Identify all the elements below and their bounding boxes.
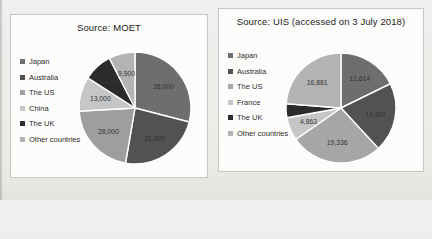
legend-label-the-uk: The UK <box>29 119 54 128</box>
pie-value-label-other-countries: 16,881 <box>307 79 328 86</box>
legend-swatch-japan <box>20 59 25 64</box>
legend-label-the-us: The US <box>237 82 262 91</box>
legend-item-the-us: The US <box>228 82 288 91</box>
legend-swatch-other-countries <box>228 131 233 136</box>
legend-label-the-us: The US <box>29 88 54 97</box>
chart-panel-moet: Source: MOET 38,00031,00028,00013,00011,… <box>10 14 208 178</box>
chart-panel-uis: Source: UIS (accessed on 3 July 2018) 12… <box>218 8 424 172</box>
legend-label-france: France <box>237 98 260 107</box>
legend-swatch-china <box>20 106 25 111</box>
pie-value-label-the-uk: 11,000 <box>101 78 122 85</box>
pie-value-label-australia: 14,491 <box>365 111 386 118</box>
legend-item-the-us: The US <box>20 88 80 97</box>
legend-label-other-countries: Other countries <box>29 135 80 144</box>
legend-swatch-the-us <box>228 84 233 89</box>
scan-edge-shadow <box>0 0 3 200</box>
pie-value-label-france: 4,863 <box>300 118 317 125</box>
legend-label-australia: Australia <box>29 73 58 82</box>
pie-value-label-japan: 38,000 <box>153 83 174 90</box>
pie-slice-the-us <box>79 108 135 163</box>
legend-swatch-france <box>228 100 233 105</box>
legend-item-the-uk: The UK <box>20 119 80 128</box>
pie-value-label-australia: 31,000 <box>144 135 165 142</box>
legend-item-japan: Japan <box>228 51 288 60</box>
legend-swatch-australia <box>228 69 233 74</box>
legend-item-france: France <box>228 98 288 107</box>
legend-moet: JapanAustraliaThe USChinaThe UKOther cou… <box>20 57 80 150</box>
legend-item-australia: Australia <box>228 67 288 76</box>
legend-swatch-the-uk <box>20 121 25 126</box>
legend-uis: JapanAustraliaThe USFranceThe UKOther co… <box>228 51 288 144</box>
legend-label-china: China <box>29 104 49 113</box>
legend-item-other-countries: Other countries <box>20 135 80 144</box>
pie-value-label-the-uk: 2,901 <box>297 106 314 113</box>
pie-value-label-other-countries: 9,900 <box>118 70 135 77</box>
two-pie-chart-figure: Source: MOET 38,00031,00028,00013,00011,… <box>0 0 432 200</box>
pie-value-label-the-us: 28,000 <box>98 128 119 135</box>
legend-item-other-countries: Other countries <box>228 129 288 138</box>
pie-value-label-japan: 12,614 <box>349 75 370 82</box>
legend-swatch-japan <box>228 53 233 58</box>
legend-item-the-uk: The UK <box>228 113 288 122</box>
legend-label-japan: Japan <box>29 57 49 66</box>
legend-swatch-the-uk <box>228 115 233 120</box>
legend-swatch-the-us <box>20 90 25 95</box>
legend-label-japan: Japan <box>237 51 257 60</box>
pie-value-label-china: 13,000 <box>90 95 111 102</box>
legend-swatch-australia <box>20 75 25 80</box>
legend-label-the-uk: The UK <box>237 113 262 122</box>
legend-item-australia: Australia <box>20 73 80 82</box>
legend-label-other-countries: Other countries <box>237 129 288 138</box>
legend-label-australia: Australia <box>237 67 266 76</box>
legend-item-china: China <box>20 104 80 113</box>
pie-value-label-the-us: 19,336 <box>327 139 348 146</box>
legend-swatch-other-countries <box>20 137 25 142</box>
legend-item-japan: Japan <box>20 57 80 66</box>
